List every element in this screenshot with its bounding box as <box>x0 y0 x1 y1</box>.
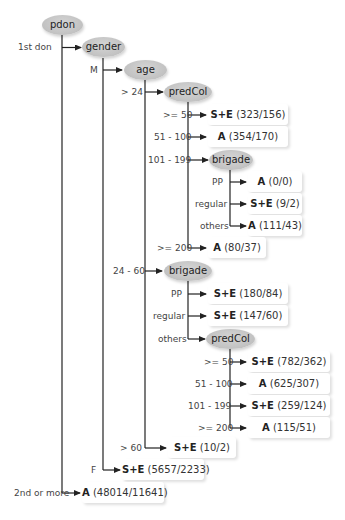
edge-label-b2-regular: regular <box>153 310 185 322</box>
leaf-p2-101-199: S+E (259/124) <box>248 395 330 416</box>
edge-label-p1-ge200: >= 200 <box>157 242 192 254</box>
edge-label-m: M <box>90 64 98 76</box>
node-gender: gender <box>82 37 125 57</box>
edge-label-b1-pp: PP <box>212 176 223 188</box>
leaf-age-gt60: S+E (10/2) <box>168 437 236 458</box>
leaf-p1-ge50: S+E (323/156) <box>208 104 288 125</box>
leaf-class: A <box>213 242 221 253</box>
leaf-class: A <box>262 422 270 433</box>
edge-label-f: F <box>91 464 96 476</box>
leaf-b1-others: A (111/43) <box>248 215 302 236</box>
leaf-counts: (111/43) <box>259 220 302 231</box>
edge-label-b1-regular: regular <box>195 198 227 210</box>
leaf-counts: (10/2) <box>200 442 230 453</box>
leaf-class: A <box>218 131 226 142</box>
edge-label-age-gt60: > 60 <box>120 442 142 454</box>
edge-label-1st-don: 1st don <box>18 41 52 53</box>
leaf-counts: (0/0) <box>269 176 293 187</box>
leaf-class: S+E <box>214 288 236 299</box>
leaf-b2-pp: S+E (180/84) <box>208 283 288 304</box>
leaf-second-or-more: A (48014/11641) <box>82 482 164 503</box>
edge-label-p2-ge200: >= 200 <box>198 422 233 434</box>
leaf-class: S+E <box>211 109 233 120</box>
edge-label-p1-ge50: >= 50 <box>163 109 192 121</box>
edge-label-p2-101-199: 101 - 199 <box>188 400 231 412</box>
leaf-class: A <box>259 378 267 389</box>
leaf-counts: (147/60) <box>239 310 282 321</box>
leaf-b1-regular: S+E (9/2) <box>248 193 302 214</box>
leaf-p2-51-100: A (625/307) <box>248 373 330 394</box>
leaf-p1-ge200: A (80/37) <box>208 237 266 258</box>
edge-label-p1-51-100: 51 - 100 <box>154 131 192 143</box>
decision-tree-diagram: pdon gender age predCol brigade brigade … <box>0 0 345 520</box>
leaf-female: S+E (5657/2233) <box>122 459 204 480</box>
edge-label-2nd-or-more: 2nd or more <box>14 487 69 499</box>
node-pdon: pdon <box>42 15 83 35</box>
node-predcol-1: predCol <box>164 82 212 102</box>
leaf-counts: (354/170) <box>229 131 278 142</box>
leaf-class: S+E <box>174 442 196 453</box>
leaf-class: A <box>82 487 90 498</box>
leaf-counts: (80/37) <box>224 242 261 253</box>
leaf-counts: (48014/11641) <box>93 487 168 498</box>
leaf-p1-51-100: A (354/170) <box>208 126 288 147</box>
leaf-counts: (323/156) <box>236 109 285 120</box>
edge-label-age-gt24: > 24 <box>121 86 143 98</box>
leaf-counts: (180/84) <box>239 288 282 299</box>
leaf-class: S+E <box>122 464 144 475</box>
leaf-counts: (9/2) <box>276 198 300 209</box>
node-predcol-2: predCol <box>206 329 255 349</box>
edge-label-age-24-60: 24 - 60 <box>113 265 145 277</box>
leaf-class: S+E <box>252 400 274 411</box>
leaf-p2-ge200: A (115/51) <box>248 417 330 438</box>
node-brigade-1: brigade <box>209 150 253 170</box>
node-brigade-2: brigade <box>164 261 212 281</box>
leaf-counts: (259/124) <box>277 400 326 411</box>
edge-label-b1-others: others <box>200 220 229 232</box>
leaf-class: A <box>258 176 266 187</box>
leaf-class: S+E <box>250 198 272 209</box>
edge-label-p2-51-100: 51 - 100 <box>195 378 233 390</box>
leaf-b1-pp: A (0/0) <box>248 171 302 192</box>
leaf-counts: (115/51) <box>273 422 316 433</box>
edge-label-b2-others: others <box>158 333 187 345</box>
leaf-class: A <box>248 220 256 231</box>
edge-label-p2-ge50: >= 50 <box>204 356 233 368</box>
leaf-p2-ge50: S+E (782/362) <box>248 351 330 372</box>
leaf-counts: (5657/2233) <box>148 464 210 475</box>
edge-label-b2-pp: PP <box>171 288 182 300</box>
leaf-counts: (625/307) <box>270 378 319 389</box>
leaf-b2-regular: S+E (147/60) <box>208 305 288 326</box>
node-age: age <box>124 60 167 80</box>
edge-label-p1-101-199: 101 - 199 <box>148 154 191 166</box>
leaf-class: S+E <box>214 310 236 321</box>
leaf-class: S+E <box>252 356 274 367</box>
leaf-counts: (782/362) <box>277 356 326 367</box>
